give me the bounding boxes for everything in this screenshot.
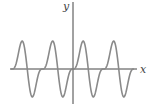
function-plot: x y	[0, 0, 153, 110]
y-axis-label: y	[62, 0, 70, 13]
x-axis-label: x	[140, 63, 147, 76]
